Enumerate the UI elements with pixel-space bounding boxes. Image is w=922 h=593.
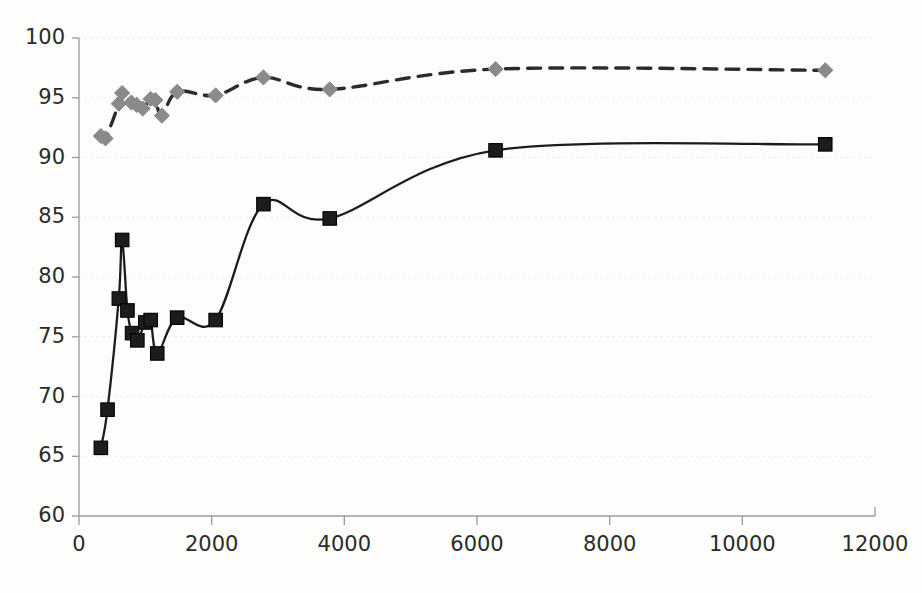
series-lower-marker xyxy=(144,313,158,327)
x-axis-tick-label-10000: 10000 xyxy=(709,532,776,556)
series-lower-marker xyxy=(257,197,271,211)
y-axis-tick-label-65: 65 xyxy=(38,443,65,467)
y-axis-tick-label-85: 85 xyxy=(38,204,65,228)
series-lower-marker xyxy=(101,403,115,417)
series-lower-marker xyxy=(323,212,337,226)
x-axis-tick-label-4000: 4000 xyxy=(318,532,371,556)
x-axis-tick-label-8000: 8000 xyxy=(583,532,636,556)
chart-background xyxy=(0,0,922,593)
y-axis-tick-label-100: 100 xyxy=(25,25,65,49)
series-lower-marker xyxy=(170,311,184,325)
x-axis-tick-label-2000: 2000 xyxy=(185,532,238,556)
y-axis-tick-label-80: 80 xyxy=(38,264,65,288)
series-lower-marker xyxy=(121,304,135,318)
series-lower-marker xyxy=(819,138,833,152)
line-chart-canvas: 6065707580859095100 02000400060008000100… xyxy=(0,0,922,593)
series-lower-marker xyxy=(131,334,145,348)
x-axis-tick-label-6000: 6000 xyxy=(450,532,503,556)
series-lower-marker xyxy=(115,233,128,247)
y-axis-tick-label-95: 95 xyxy=(38,85,65,109)
series-lower-marker xyxy=(151,347,165,361)
x-axis-tick-label-0: 0 xyxy=(72,532,85,556)
x-axis-tick-label-12000: 12000 xyxy=(842,532,909,556)
y-axis-tick-label-60: 60 xyxy=(38,503,65,527)
series-lower-marker xyxy=(209,313,223,327)
chart-figure: 6065707580859095100 02000400060008000100… xyxy=(0,0,922,593)
series-lower-marker xyxy=(489,144,503,158)
y-axis-tick-label-90: 90 xyxy=(38,145,65,169)
y-axis-tick-label-75: 75 xyxy=(38,324,65,348)
series-lower-marker xyxy=(94,441,108,455)
y-axis-tick-label-70: 70 xyxy=(38,384,65,408)
